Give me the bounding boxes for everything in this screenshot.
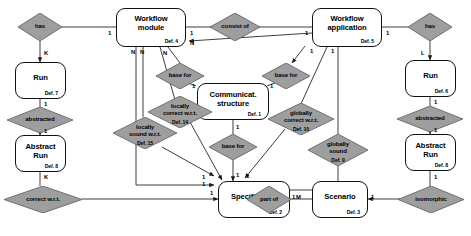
entity-name-line2: module [138, 23, 164, 32]
cardinality-label: 1 [202, 181, 205, 187]
cardinality-label: L [421, 50, 425, 56]
relationship-label-line1: globally [327, 140, 349, 147]
entity-def-label: Def. 7 [45, 90, 58, 96]
relationship-label: correct w.r.t. [26, 195, 60, 202]
relationship-globally-correct-wrt[interactable]: globally correct w.r.t. Def. 10 [268, 103, 334, 135]
relationship-def-label: Def. 15 [113, 140, 177, 146]
relationship-label: base for [222, 142, 245, 149]
relationship-base-for-bottom[interactable]: base for [209, 134, 257, 160]
relationship-label: has [425, 22, 435, 29]
relationship-has-left[interactable]: has [18, 13, 62, 41]
entity-def-label: Def. 8 [45, 163, 58, 169]
entity-name-line1: Run [423, 71, 437, 80]
entity-run-left[interactable]: Run Def. 7 [15, 62, 66, 99]
cardinality-label: 1 [44, 128, 47, 134]
relationship-abstracted-left[interactable]: abstracted [7, 107, 73, 133]
edge-wfapp-baseforright [292, 46, 305, 63]
relationship-label-line1: locally [171, 102, 189, 109]
relationship-consist-of[interactable]: consist of [210, 13, 260, 41]
cardinality-label: 1 [371, 194, 374, 200]
entity-name-line2: Run [33, 151, 47, 160]
er-diagram-canvas: Workflow module Def. 4 Workflow applicat… [0, 0, 471, 236]
relationship-label: has [35, 22, 45, 29]
cardinality-label: N [131, 49, 135, 55]
cardinality-label: 1 [192, 83, 195, 89]
relationship-label-line2: correct w.r.t. [163, 109, 197, 116]
relationship-locally-sound-wrt[interactable]: locally sound w.r.t. Def. 15 [113, 117, 177, 149]
relationship-label-line2: correct w.r.t. [284, 116, 318, 123]
relationship-label: base for [169, 71, 192, 78]
cardinality-label: N [140, 49, 144, 55]
relationship-label-line1: locally [136, 123, 154, 130]
cardinality-label: 1 [236, 172, 239, 178]
entity-run-right[interactable]: Run Def. 6 [405, 60, 456, 97]
relationship-globally-sound[interactable]: globally sound Def. 9 [308, 134, 368, 166]
cardinality-label: 1 [434, 174, 437, 180]
cardinality-label: 1 [305, 30, 308, 36]
entity-def-label: Def. 8 [435, 162, 448, 168]
cardinality-label: 1 [44, 101, 47, 107]
relationship-label-line2: sound w.r.t. [129, 130, 161, 137]
cardinality-label: N [163, 50, 167, 56]
relationship-def-label: Def. 10 [268, 126, 334, 132]
relationship-has-right[interactable]: has [408, 13, 452, 41]
entity-name-line1: Communicat. [210, 90, 257, 99]
relationship-part-of[interactable]: part of [247, 186, 291, 213]
entity-abstract-run-left[interactable]: Abstract Run Def. 8 [15, 135, 66, 172]
relationship-isomorphic[interactable]: isomorphic [398, 186, 464, 213]
entity-name-line2: application [328, 23, 367, 32]
cardinality-label: 1 [310, 48, 313, 54]
entity-def-label: Def. 4 [165, 38, 178, 44]
relationship-label-line2: sound [329, 147, 347, 154]
edge-wfmodule-baseforleft [168, 47, 180, 63]
cardinality-label: 1 [270, 83, 273, 89]
entity-scenario[interactable]: Scenario Def. 3 [312, 181, 368, 218]
entity-def-label: Def. 1 [248, 111, 261, 117]
cardinality-label: 1 [292, 194, 295, 200]
cardinality-label: 1 [331, 48, 334, 54]
entity-workflow-application[interactable]: Workflow application Def. 5 [312, 8, 382, 47]
entity-name-line1: Abstract [415, 141, 445, 150]
cardinality-label: 1 [108, 30, 111, 36]
cardinality-label: 1 [190, 30, 193, 36]
relationship-label: part of [260, 195, 278, 202]
cardinality-label: 1 [434, 99, 437, 105]
cardinality-label: 1 [386, 30, 389, 36]
entity-name-line1: Workflow [134, 14, 167, 23]
relationship-label-line1: globally [290, 109, 312, 116]
relationship-abstracted-right[interactable]: abstracted [397, 106, 463, 132]
cardinality-label: 1 [246, 173, 249, 179]
entity-def-label: Def. 3 [347, 209, 360, 215]
relationship-base-for-left[interactable]: base for [156, 63, 204, 89]
cardinality-label: N [190, 40, 194, 46]
relationship-label: isomorphic [415, 195, 446, 202]
entity-name-line1: Run [33, 73, 47, 82]
relationship-label: abstracted [415, 114, 444, 121]
relationship-def-label: Def. 9 [308, 157, 368, 163]
relationship-label: consist of [221, 22, 248, 29]
cardinality-label: 1 [210, 190, 213, 196]
relationship-correct-wrt[interactable]: correct w.r.t. [4, 186, 82, 213]
cardinality-label: 1 [434, 127, 437, 133]
entity-name-line1: Scenario [324, 192, 355, 201]
cardinality-label: K [44, 50, 48, 56]
cardinality-label: M [296, 194, 301, 200]
cardinality-label: 1 [236, 124, 239, 130]
entity-def-label: Def. 5 [361, 38, 374, 44]
relationship-label: abstracted [25, 115, 54, 122]
entity-name-line2: Run [423, 150, 437, 159]
entity-name-line1: Workflow [330, 14, 363, 23]
entity-name-line2: structure [217, 99, 249, 108]
entity-workflow-module[interactable]: Workflow module Def. 4 [116, 8, 186, 47]
cardinality-label: 1 [202, 174, 205, 180]
relationship-label: base for [275, 71, 298, 78]
cardinality-label: K [44, 174, 48, 180]
entity-abstract-run-right[interactable]: Abstract Run Def. 8 [405, 134, 456, 171]
entity-def-label: Def. 6 [435, 88, 448, 94]
entity-name-line1: Abstract [25, 142, 55, 151]
